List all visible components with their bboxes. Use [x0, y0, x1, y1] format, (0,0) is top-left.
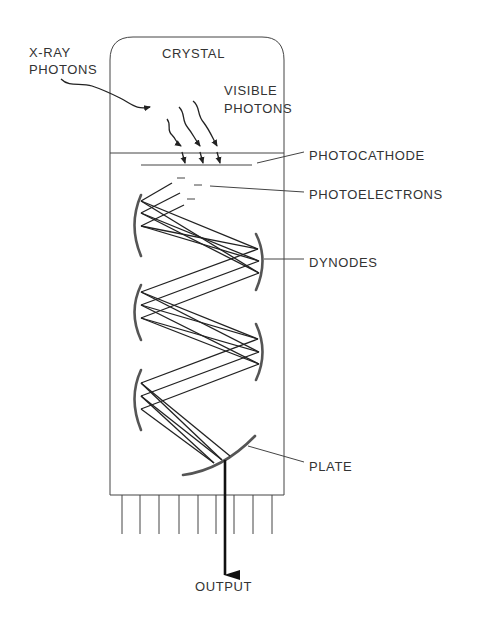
label-crystal: CRYSTAL: [162, 46, 225, 61]
tube-pins: [122, 495, 272, 534]
label-photoelectrons: PHOTOELECTRONS: [309, 187, 443, 202]
label-dynodes: DYNODES: [309, 255, 378, 270]
photomultiplier-diagram: X-RAY PHOTONS CRYSTAL VISIBLE PHOTONS PH…: [0, 0, 481, 634]
leader-photoelectrons: [210, 186, 304, 192]
photon-arrow-icon: [200, 152, 203, 163]
label-output: OUTPUT: [195, 579, 252, 594]
label-photocathode: PHOTOCATHODE: [309, 148, 425, 163]
electron-paths: [141, 183, 259, 463]
label-visible-photons-1: VISIBLE: [224, 83, 277, 98]
label-xray-photons-2: PHOTONS: [29, 62, 97, 77]
photon-arrow-icon: [217, 152, 220, 163]
label-visible-photons-2: PHOTONS: [224, 101, 292, 116]
label-plate: PLATE: [309, 459, 352, 474]
visible-photon-arrow-icon: [167, 119, 181, 146]
photon-arrow-icon: [182, 152, 185, 163]
photoelectrons: [177, 178, 202, 199]
plate: [183, 436, 255, 475]
visible-photon-arrow-icon: [179, 107, 200, 146]
label-xray-photons-1: X-RAY: [29, 45, 71, 60]
leader-plate: [248, 446, 304, 462]
leader-photocathode: [257, 152, 304, 163]
visible-photon-arrow-icon: [193, 101, 217, 146]
xray-arrow-icon: [61, 79, 150, 108]
